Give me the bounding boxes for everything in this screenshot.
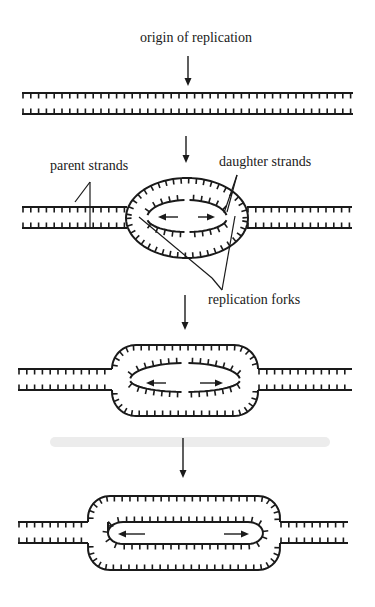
stage2-outer-bottom-parent-tick	[155, 247, 157, 252]
stage3-daughter-bottom-right-tick	[237, 384, 240, 389]
label-daughter-strands: daughter strands	[219, 154, 311, 170]
stage4-daughter-top-tick	[263, 531, 268, 532]
stage2-outer-top-parent-tick	[239, 203, 244, 206]
stage3-daughter-top-left-tick	[168, 358, 169, 363]
stage2-outer-top-parent-tick	[241, 210, 246, 212]
stage4-daughter-bottom-tick	[262, 537, 267, 539]
replication-forks-pointer	[139, 217, 212, 278]
stage3-outer-top-parent-tick	[115, 358, 120, 361]
stage3-outer-bottom-parent	[112, 390, 258, 416]
stage4-outer-top-parent-tick	[267, 499, 270, 503]
stage3-daughter-bottom-left-tick	[145, 389, 146, 394]
stage3-daughter-bottom-left-tick	[153, 390, 154, 395]
stage3-daughter-top-right-tick	[200, 358, 201, 363]
step-arrow-3-icon	[180, 470, 187, 478]
stage3-daughter-top-right-tick	[216, 361, 217, 366]
stage3-outer-top-parent-tick	[126, 347, 128, 352]
stage4-daughter-bottom-tick	[106, 539, 110, 542]
stage3-daughter-bottom-right-tick	[207, 391, 208, 396]
stage2-outer-bottom-parent-tick	[162, 249, 164, 254]
stage2-outer-top-parent-tick	[203, 180, 204, 185]
stage3-daughter-bottom-left-tick	[129, 383, 133, 387]
label-origin-of-replication: origin of replication	[140, 30, 252, 46]
stage3-daughter-bottom-right-tick	[215, 390, 216, 395]
stage2-outer-top-parent-tick	[235, 197, 239, 201]
stage3-outer-bottom-parent-tick	[118, 404, 122, 408]
stage3-daughter-bottom-left-tick	[162, 391, 163, 396]
stage2-outer-bottom-parent-tick	[233, 237, 237, 241]
stage4-daughter-top-tick	[251, 517, 252, 522]
stage4-daughter-top-tick	[259, 520, 262, 525]
stage2-daughter-bottom-left-tick	[172, 231, 173, 236]
stage4-outer-top-parent-tick	[99, 499, 102, 504]
parent-strands-pointer	[75, 182, 90, 202]
stage4-outer-top-parent-tick	[89, 510, 94, 512]
stage4-outer-top-parent-tick	[271, 505, 275, 508]
stage3-outer-top-parent-tick	[120, 352, 124, 356]
stage4-outer-top-parent-tick	[262, 496, 263, 501]
stage2-outer-bottom-parent-tick	[135, 235, 139, 239]
stage2-outer-top-parent-tick	[158, 183, 160, 188]
stage2-outer-bottom-parent-tick	[214, 248, 216, 253]
step-arrow-1-icon	[183, 155, 190, 163]
stage2-outer-bottom-parent-tick	[221, 245, 224, 250]
stage2-outer-top-parent-tick	[133, 200, 137, 203]
stage2-outer-bottom-parent-tick	[148, 244, 151, 249]
stage3-outer-top-parent-tick	[246, 350, 250, 354]
stage4-outer-top-parent-tick	[107, 496, 108, 501]
scan-smudge	[50, 437, 330, 447]
stage2-daughter-bottom-left-tick	[164, 230, 165, 235]
origin-arrow-icon	[185, 78, 192, 86]
stage4-daughter-top-tick	[118, 517, 119, 522]
stage4-outer-top-parent-tick	[93, 504, 97, 508]
stage2-outer-bottom-parent-tick	[170, 251, 171, 256]
stage2-daughter-top-right-tick	[209, 198, 211, 203]
stage2-outer-bottom-parent-tick	[127, 224, 132, 226]
stage2-daughter-top-right	[190, 200, 227, 215]
stage3-left-arrow-icon	[146, 380, 154, 387]
stage2-daughter-bottom-right-tick	[224, 223, 227, 227]
label-parent-strands: parent strands	[50, 158, 128, 174]
stage4-outer-bottom-parent-tick	[266, 562, 269, 567]
stage4-daughter-bottom-tick	[257, 542, 260, 547]
stage4-right-arrow-icon	[241, 531, 249, 538]
stage2-outer-top-parent-tick	[173, 179, 174, 184]
stage2-daughter-top-left-tick	[177, 195, 178, 200]
stage2-outer-bottom-parent-tick	[200, 251, 201, 256]
stage2-right-arrow-icon	[207, 214, 215, 221]
stage3-outer-top-parent-tick	[240, 347, 242, 352]
stage2-outer-top-parent-tick	[144, 190, 147, 195]
stage3-daughter-top-left-tick	[144, 363, 146, 368]
stage2-outer-top-parent-tick	[151, 186, 154, 191]
stage4-daughter-bottom-tick	[115, 543, 117, 548]
stage2-outer-top-parent-tick	[138, 194, 142, 198]
stage3-daughter-top-left-tick	[161, 359, 162, 364]
stage2-outer-bottom-parent-tick	[207, 250, 208, 255]
stage3-outer-bottom-parent-tick	[251, 398, 256, 400]
step-arrow-2-icon	[182, 322, 189, 330]
stage3-daughter-top-left-tick	[128, 372, 132, 375]
stage2-daughter-top-left-tick	[153, 202, 156, 207]
stage2-daughter-top-right-tick	[216, 201, 218, 206]
stage2-outer-bottom-parent-tick	[237, 233, 241, 236]
stage4-outer-bottom-parent-tick	[271, 558, 275, 562]
stage4-outer-bottom-parent-tick	[106, 564, 107, 569]
stage2-outer-bottom-parent-tick	[240, 227, 245, 229]
stage3-outer-bottom-parent-tick	[114, 399, 119, 401]
stage2-outer-bottom-parent-tick	[131, 230, 136, 233]
replication-forks-pointer	[212, 278, 222, 290]
stage2-outer-top-parent-tick	[210, 181, 212, 186]
stage2-daughter-bottom-left	[147, 220, 184, 232]
stage3-outer-bottom-parent-tick	[249, 403, 253, 406]
stage3-daughter-top-left-tick	[136, 366, 138, 371]
stage2-outer-top-parent-tick	[217, 184, 219, 189]
stage3-outer-bottom-parent-tick	[124, 408, 127, 413]
stage4-outer-bottom-parent-tick	[98, 562, 101, 567]
stage2-daughter-bottom-right	[190, 220, 227, 232]
stage2-daughter-top-left-tick	[169, 196, 170, 201]
replication-forks-pointer	[222, 216, 235, 290]
diagram-canvas	[0, 0, 375, 607]
stage3-daughter-top-right-tick	[230, 366, 232, 371]
stage2-left-arrow-icon	[158, 214, 166, 221]
stage2-outer-top-parent-tick	[224, 187, 227, 192]
